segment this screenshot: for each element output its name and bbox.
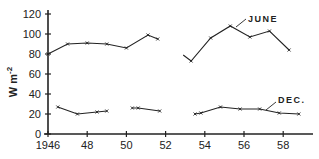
x-tick-label: 54 [199, 139, 211, 151]
line-chart: 020406080100120 1946485052545658 JUNEDEC… [0, 0, 319, 159]
series-label-june: JUNE [248, 14, 278, 24]
x-tick-label: 1946 [36, 139, 60, 151]
series-labels: JUNEDEC. [236, 14, 306, 110]
y-axis-title-exponent: -2 [5, 66, 14, 74]
y-tick-label: 120 [23, 8, 41, 20]
y-tick-label: 20 [29, 108, 41, 120]
series-layer [47, 25, 301, 116]
data-point-marker [288, 49, 291, 52]
y-tick-label: 60 [29, 68, 41, 80]
y-axis-title-unit: W m [7, 74, 19, 97]
y-axis: 020406080100120 [23, 8, 51, 140]
y-tick-label: 40 [29, 88, 41, 100]
series-june [47, 25, 291, 63]
y-tick-label: 100 [23, 28, 41, 40]
x-tick-label: 58 [277, 139, 289, 151]
data-point-marker [190, 60, 193, 63]
x-axis: 1946485052545658 [36, 131, 313, 151]
series-label-dec: DEC. [278, 95, 306, 105]
y-tick-label: 80 [29, 48, 41, 60]
series-dec [56, 106, 300, 116]
x-tick-label: 56 [238, 139, 250, 151]
x-tick-label: 50 [120, 139, 132, 151]
x-tick-label: 48 [81, 139, 93, 151]
y-axis-title: W m-2 [5, 66, 19, 97]
x-tick-label: 52 [159, 139, 171, 151]
